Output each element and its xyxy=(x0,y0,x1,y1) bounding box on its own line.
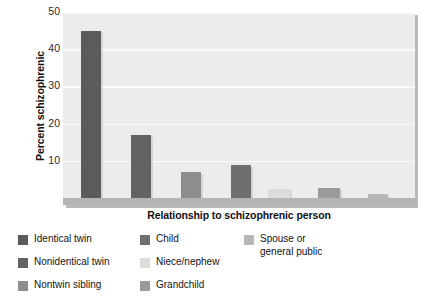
gridline xyxy=(63,49,415,51)
bar xyxy=(318,188,340,198)
legend-item: Child xyxy=(140,233,260,250)
x-axis-title: Relationship to schizophrenic person xyxy=(63,209,415,221)
gridline xyxy=(63,86,415,88)
legend-swatch-icon xyxy=(140,235,150,245)
bar xyxy=(131,135,151,198)
legend-swatch-icon xyxy=(18,258,28,268)
legend-item: Spouse or general public xyxy=(244,233,404,263)
plot-area xyxy=(63,12,415,205)
bar xyxy=(231,165,251,198)
legend-label: Child xyxy=(156,233,179,246)
legend-item: Nonidentical twin xyxy=(18,256,143,273)
y-axis-tick-label: 50 xyxy=(36,6,60,17)
legend-label: Nonidentical twin xyxy=(34,256,110,269)
y-axis-tick-label: 10 xyxy=(36,155,60,166)
legend-swatch-icon xyxy=(18,281,28,291)
legend-label: Identical twin xyxy=(34,233,92,246)
legend-label: Niece/nephew xyxy=(156,256,219,269)
legend-item: Nontwin sibling xyxy=(18,279,143,296)
axis-baseline xyxy=(63,198,415,205)
gridline xyxy=(63,161,415,163)
legend-swatch-icon xyxy=(140,258,150,268)
y-axis-tick-label: 40 xyxy=(36,43,60,54)
legend-swatch-icon xyxy=(18,235,28,245)
legend-column-3: Spouse or general public xyxy=(244,233,404,269)
y-axis-tick-label: 20 xyxy=(36,118,60,129)
legend: Identical twinNonidentical twinNontwin s… xyxy=(16,233,416,297)
gridline xyxy=(63,124,415,126)
bar-chart-figure: Percent schizophrenic 5040302010 Relatio… xyxy=(0,0,425,305)
y-axis-tick-labels: 5040302010 xyxy=(36,0,60,215)
bar xyxy=(181,172,201,198)
legend-label: Spouse or general public xyxy=(260,233,322,258)
gridline xyxy=(63,12,415,14)
bar xyxy=(81,31,101,198)
legend-column-1: Identical twinNonidentical twinNontwin s… xyxy=(18,233,143,302)
legend-item: Niece/nephew xyxy=(140,256,260,273)
legend-swatch-icon xyxy=(244,235,254,245)
legend-label: Nontwin sibling xyxy=(34,279,101,292)
legend-column-2: ChildNiece/nephewGrandchild xyxy=(140,233,260,302)
legend-label: Grandchild xyxy=(156,279,204,292)
bar xyxy=(268,189,290,198)
legend-item: Grandchild xyxy=(140,279,260,296)
legend-swatch-icon xyxy=(140,281,150,291)
y-axis-tick-label: 30 xyxy=(36,80,60,91)
legend-item: Identical twin xyxy=(18,233,143,250)
